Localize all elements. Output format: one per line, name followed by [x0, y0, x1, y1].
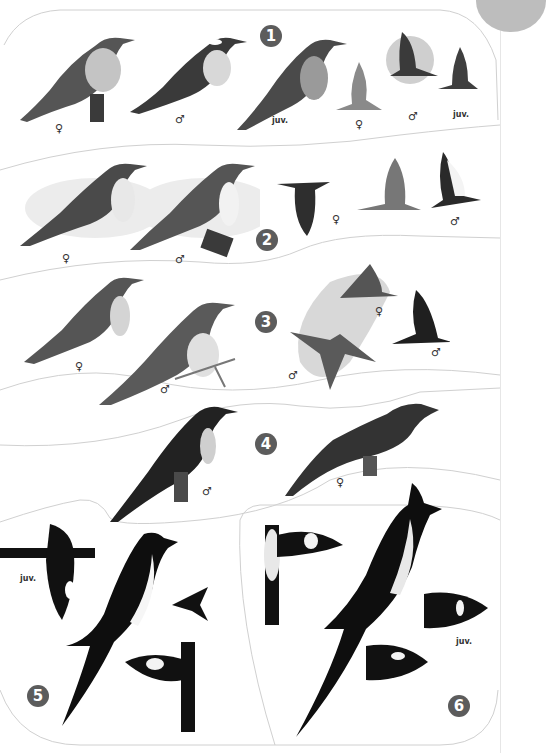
bird-flying-male — [380, 30, 442, 85]
species-number-badge: 5 — [27, 685, 49, 707]
label-male: ♂ — [288, 369, 298, 382]
bird-flying-female — [355, 156, 425, 216]
label-male: ♂ — [450, 215, 460, 228]
bird-illustration-male — [125, 158, 260, 263]
bird-illustration-male — [108, 400, 240, 525]
label-male: ♂ — [175, 113, 185, 126]
label-female: ♀ — [375, 305, 383, 318]
species-number-badge: 4 — [255, 433, 277, 455]
label-juvenile: juv. — [453, 110, 469, 119]
wing-adult — [362, 640, 432, 685]
label-female: ♀ — [332, 213, 340, 226]
label-male: ♂ — [408, 110, 418, 123]
species-number-badge: 3 — [255, 311, 277, 333]
label-female: ♀ — [62, 252, 70, 265]
label-female: ♀ — [355, 118, 363, 131]
bird-flying-male — [425, 150, 485, 216]
bird-flying-dark — [275, 180, 335, 238]
label-juvenile: juv. — [272, 116, 288, 125]
label-juvenile: juv. — [20, 574, 36, 583]
label-male: ♂ — [431, 346, 441, 359]
label-female: ♀ — [55, 122, 63, 135]
label-male: ♂ — [175, 253, 185, 266]
label-juvenile: juv. — [456, 637, 472, 646]
label-male: ♂ — [160, 383, 170, 396]
wash-and-flying-birds — [290, 262, 450, 397]
bird-flying-small — [170, 585, 210, 625]
bird-flying-juvenile — [436, 45, 480, 93]
species-number-badge: 6 — [448, 695, 470, 717]
label-male: ♂ — [202, 485, 212, 498]
bird-flying-female — [334, 60, 384, 115]
wing-juvenile — [420, 588, 490, 633]
bird-flying-underwing — [123, 640, 208, 735]
label-female: ♀ — [75, 360, 83, 373]
